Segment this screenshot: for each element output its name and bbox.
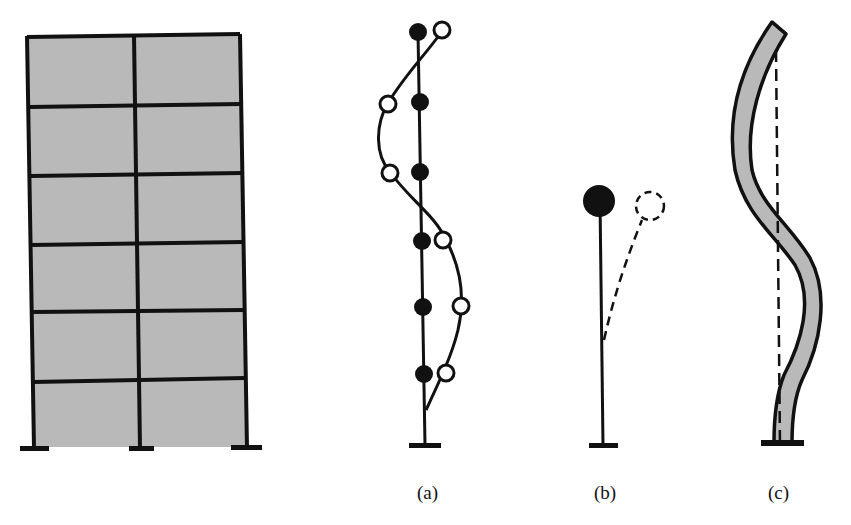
building-frame <box>20 34 262 451</box>
panel-a-lumped-mass-model <box>378 22 469 448</box>
support-middle <box>129 446 154 451</box>
panel-label-a: (a) <box>417 482 438 504</box>
panel-c-continuous-model <box>732 22 821 446</box>
panel-label-b: (b) <box>594 482 616 504</box>
support-left <box>20 446 49 451</box>
panel-b-sdof-model <box>583 185 664 448</box>
support-right <box>231 445 262 450</box>
panel-label-c: (c) <box>768 482 789 504</box>
structural-models-diagram <box>0 0 851 525</box>
